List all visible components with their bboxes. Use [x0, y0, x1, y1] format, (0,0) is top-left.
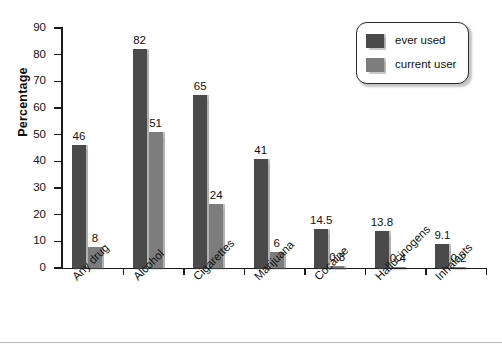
bar-value-label: 82: [124, 35, 156, 47]
bar-value-label: 51: [140, 118, 172, 130]
y-tick-label: 50: [33, 129, 46, 141]
legend-item-ever-used: ever used: [366, 32, 446, 50]
footer-divider: [0, 342, 502, 343]
y-tick-label: 70: [33, 75, 46, 87]
bar-value-label: 8: [79, 233, 111, 245]
y-tick-mark: [54, 241, 62, 242]
x-tick-mark: [486, 268, 487, 275]
y-axis-ticks: 0102030405060708090: [0, 0, 62, 355]
bar-chart: Percentage 0102030405060708090 468825165…: [0, 0, 502, 355]
y-tick-mark: [54, 27, 62, 28]
bar-value-label: 41: [245, 145, 277, 157]
bar-value-label: 65: [184, 81, 216, 93]
x-tick-mark: [244, 268, 245, 275]
y-tick-label: 90: [33, 22, 46, 34]
bar-value-label: 24: [200, 190, 232, 202]
y-tick-mark: [54, 81, 62, 82]
y-tick-mark: [54, 134, 62, 135]
y-tick-mark: [54, 161, 62, 162]
y-tick-mark: [54, 187, 62, 188]
bar-value-label: 14.5: [305, 215, 337, 227]
bar-ever-used: [254, 159, 268, 268]
y-tick-label: 60: [33, 102, 46, 114]
bar-value-label: 46: [63, 131, 95, 143]
legend-label-ever-used: ever used: [395, 35, 446, 47]
x-tick-mark: [123, 268, 124, 275]
y-tick-label: 0: [40, 262, 46, 274]
y-tick-label: 10: [33, 235, 46, 247]
legend-label-current-user: current user: [395, 59, 456, 71]
x-tick-mark: [304, 268, 305, 275]
bar-ever-used: [72, 145, 86, 268]
legend-swatch-ever-used: [366, 34, 384, 48]
y-tick-mark: [54, 267, 62, 268]
bar-value-label: 13.8: [366, 217, 398, 229]
y-tick-label: 20: [33, 209, 46, 221]
y-tick-label: 80: [33, 49, 46, 61]
y-tick-label: 30: [33, 182, 46, 194]
legend: ever used current user: [356, 22, 469, 84]
y-tick-mark: [54, 107, 62, 108]
legend-item-current-user: current user: [366, 56, 456, 74]
x-tick-mark: [425, 268, 426, 275]
legend-swatch-current-user: [366, 58, 384, 72]
bar-ever-used: [193, 95, 207, 268]
x-tick-mark: [365, 268, 366, 275]
y-tick-mark: [54, 54, 62, 55]
y-tick-label: 40: [33, 155, 46, 167]
bar-ever-used: [133, 49, 147, 268]
x-tick-mark: [183, 268, 184, 275]
y-tick-mark: [54, 214, 62, 215]
